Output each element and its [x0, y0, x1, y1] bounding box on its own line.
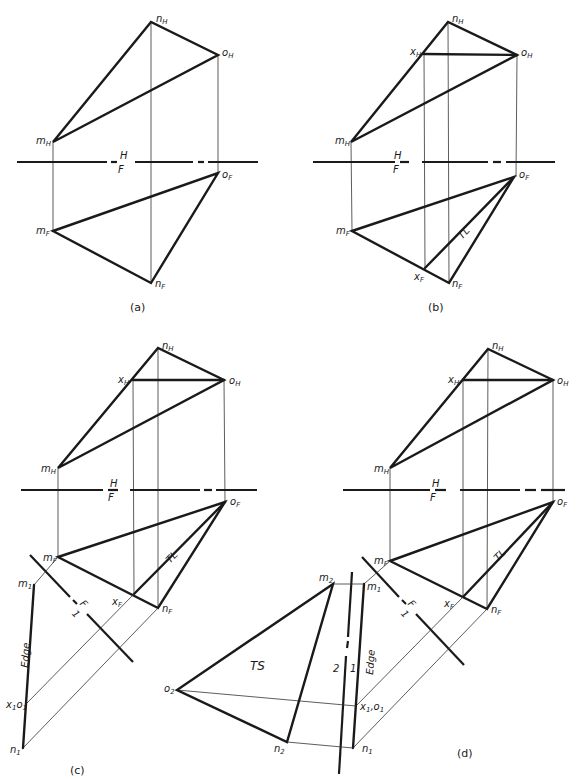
- label-x1o1: x1o1: [5, 699, 27, 712]
- label-nF: nF: [162, 603, 173, 616]
- projector-n1: [23, 608, 158, 748]
- label-xH: xH: [117, 374, 130, 387]
- projector-m: [351, 142, 352, 231]
- label-o2: o2: [164, 683, 175, 696]
- label-nF: nF: [491, 604, 502, 617]
- panel-c: H F F 1 Edge mF m1 x1o1 n1 nH oH xH mH o…: [5, 340, 257, 777]
- label-edge: Edge: [19, 642, 32, 668]
- projector-o: [224, 380, 225, 502]
- triangle-front-view: [58, 502, 225, 608]
- label-xH: xH: [447, 374, 460, 387]
- label-ts: TS: [250, 659, 265, 673]
- fold-label-1: 1: [399, 608, 411, 620]
- label-oF: oF: [222, 169, 233, 182]
- projector-n1: [353, 609, 487, 748]
- descriptive-geometry-figure: H F nH oH mH oF mF nF (a) H F nH: [0, 0, 578, 779]
- fold-label-h: H: [394, 150, 402, 161]
- label-tl: TL: [456, 225, 472, 241]
- fold-label-f: F: [118, 164, 124, 175]
- label-oF: oF: [557, 496, 568, 509]
- label-oH: oH: [229, 375, 241, 388]
- triangle-top-view: [351, 22, 517, 142]
- panel-d: H F F 1 Edge 2 1 TS m: [164, 340, 569, 774]
- fold-label-2: 2: [333, 663, 339, 674]
- label-m1: m1: [18, 578, 32, 591]
- triangle-top-view: [53, 22, 218, 142]
- caption-d: (d): [457, 747, 473, 760]
- label-mH: mH: [374, 463, 390, 476]
- caption-a: (a): [130, 301, 145, 314]
- fold-label-f: F: [393, 164, 399, 175]
- label-oF: oF: [230, 496, 241, 509]
- caption-b: (b): [428, 301, 444, 314]
- triangle-front-view: [53, 173, 218, 283]
- fold-label-h: H: [120, 150, 128, 161]
- projector-x: [133, 380, 134, 594]
- triangle-top-view: [390, 349, 553, 468]
- label-nF: nF: [155, 278, 166, 291]
- true-length-line: [463, 502, 553, 597]
- label-mH: mH: [36, 135, 52, 148]
- label-xF: xF: [443, 598, 455, 611]
- label-oH: oH: [222, 47, 234, 60]
- label-xF: xF: [111, 596, 123, 609]
- fold-label-1: 1: [70, 608, 82, 620]
- label-mH: mH: [335, 135, 351, 148]
- caption-c: (c): [70, 764, 85, 777]
- projector-o: [516, 55, 517, 177]
- fold-label-h: H: [110, 478, 118, 489]
- panel-a: H F nH oH mH oF mF nF (a): [17, 13, 258, 314]
- label-edge: Edge: [364, 649, 377, 675]
- projector-n2: [287, 742, 353, 748]
- triangle-front-view: [352, 177, 514, 283]
- label-n2: n2: [274, 743, 285, 756]
- label-nF: nF: [452, 278, 463, 291]
- label-oF: oF: [519, 169, 530, 182]
- panel-b: H F nH oH xH mH oF mF xF nF TL (b): [313, 13, 555, 314]
- label-oH: oH: [521, 47, 533, 60]
- label-mF: mF: [336, 225, 351, 238]
- triangle-top-view: [58, 348, 224, 468]
- triangle-front-view: [390, 502, 553, 609]
- label-mH: mH: [41, 463, 57, 476]
- label-mF: mF: [36, 225, 51, 238]
- label-mF: mF: [374, 555, 389, 568]
- label-oH: oH: [557, 375, 569, 388]
- label-n1: n1: [10, 744, 21, 757]
- label-x1o1: x1,o1: [359, 701, 384, 714]
- label-m1: m1: [367, 581, 381, 594]
- label-n1: n1: [362, 743, 373, 756]
- fold-label-1b: 1: [350, 663, 356, 674]
- horizontal-line-xo: [424, 54, 517, 55]
- fold-label-f: F: [108, 492, 114, 503]
- label-nF-mF: mF: [43, 552, 58, 565]
- fold-label-f: F: [78, 598, 90, 610]
- fold-label-h: H: [432, 478, 440, 489]
- label-xF: xF: [413, 271, 425, 284]
- label-m2: m2: [319, 572, 334, 585]
- fold-label-f: F: [430, 492, 436, 503]
- label-tl: TL: [492, 547, 508, 563]
- label-xH: xH: [409, 46, 422, 59]
